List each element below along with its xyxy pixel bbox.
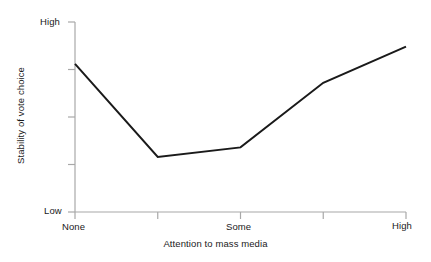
y-axis-tick-label-high: High — [40, 16, 60, 27]
x-axis-tick-label-high: High — [392, 220, 412, 231]
x-axis-ticks — [75, 212, 406, 219]
y-axis-tick-label-low: Low — [44, 205, 62, 216]
y-axis-ticks — [68, 22, 75, 212]
x-axis-tick-label-none: None — [62, 221, 85, 232]
chart-figure: High Low None Some High Attention to mas… — [0, 0, 431, 262]
data-line-series-0 — [75, 47, 406, 157]
x-axis-tick-label-some: Some — [226, 221, 251, 232]
x-axis-title: Attention to mass media — [0, 238, 431, 249]
y-axis-title: Stability of vote choice — [15, 56, 26, 176]
